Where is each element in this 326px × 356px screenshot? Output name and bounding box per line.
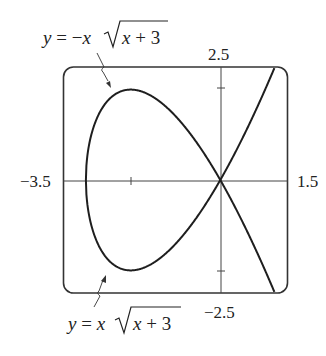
svg-text:y = −x: y = −x (41, 27, 91, 48)
upper-curve-label: y = −x x + 3 (41, 21, 168, 88)
eq-x: x (96, 313, 106, 334)
eq-equals: = (76, 313, 96, 334)
curve-neg-x-sqrt (86, 90, 275, 292)
graph-figure: 2.5 −2.5 −3.5 1.5 y = −x x + 3 y = x x +… (0, 0, 326, 356)
plot-area (86, 68, 275, 292)
eq-rad-rest: + 3 (130, 27, 160, 48)
eq-rad-rest: + 3 (141, 313, 171, 334)
svg-text:x + 3: x + 3 (132, 313, 171, 334)
svg-text:x + 3: x + 3 (121, 27, 160, 48)
xmax-label: 1.5 (297, 172, 318, 191)
arrowhead-icon (101, 275, 106, 283)
eq-y: y (66, 313, 77, 334)
lower-curve-label: y = x x + 3 (66, 275, 181, 334)
ymax-label: 2.5 (208, 45, 229, 64)
viewing-window-frame (64, 67, 288, 293)
xmin-label: −3.5 (20, 172, 51, 191)
curve-x-sqrt (86, 68, 275, 270)
eq-x: x (81, 27, 91, 48)
arrowhead-icon (106, 81, 111, 88)
ymin-label: −2.5 (204, 303, 235, 322)
eq-y: y (41, 27, 52, 48)
eq-equals: = (51, 27, 71, 48)
svg-text:y = x: y = x (66, 313, 106, 334)
eq-neg: − (72, 27, 83, 48)
